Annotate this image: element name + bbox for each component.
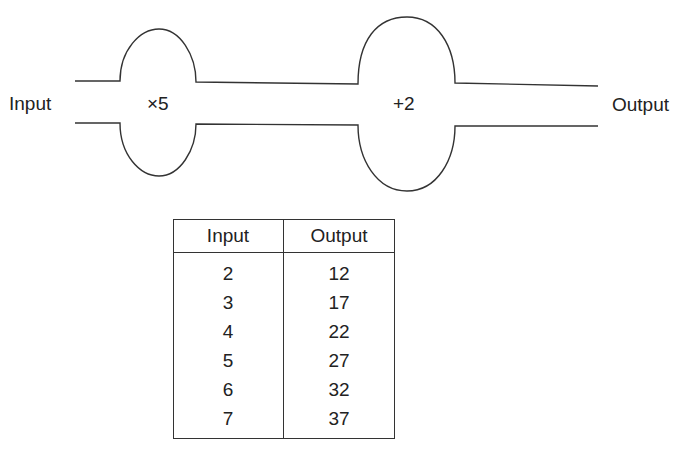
table-header-row: Input Output (173, 219, 394, 253)
table-row: 2 12 (173, 253, 394, 289)
header-output: Output (284, 219, 395, 253)
cell-input: 4 (173, 317, 284, 346)
cell-output: 12 (284, 253, 395, 289)
cell-input: 7 (173, 404, 284, 439)
cell-output: 22 (284, 317, 395, 346)
input-output-table: Input Output 2 12 3 17 4 22 5 27 6 32 7 … (173, 219, 394, 439)
cell-input: 6 (173, 375, 284, 404)
cell-input: 3 (173, 288, 284, 317)
add-stage-label: +2 (393, 94, 415, 113)
cell-input: 2 (173, 253, 284, 289)
cell-output: 32 (284, 375, 395, 404)
multiply-stage-label: ×5 (147, 94, 169, 113)
table-row: 5 27 (173, 346, 394, 375)
header-input: Input (173, 219, 284, 253)
cell-output: 17 (284, 288, 395, 317)
table-row: 4 22 (173, 317, 394, 346)
cell-output: 27 (284, 346, 395, 375)
table-row: 7 37 (173, 404, 394, 439)
table-row: 6 32 (173, 375, 394, 404)
function-machine-pipe (0, 0, 690, 210)
table-row: 3 17 (173, 288, 394, 317)
output-label: Output (612, 95, 669, 114)
cell-input: 5 (173, 346, 284, 375)
cell-output: 37 (284, 404, 395, 439)
input-label: Input (9, 94, 51, 113)
